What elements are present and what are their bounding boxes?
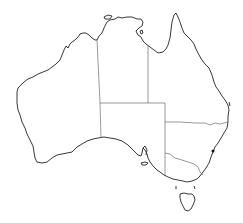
- fraser-island: [229, 102, 230, 106]
- wa-sa-border: [100, 103, 101, 138]
- map-svg: [0, 0, 243, 223]
- melville-island: [104, 15, 112, 19]
- bass-strait-island-east: [194, 186, 195, 189]
- groote-eylandt: [140, 30, 143, 34]
- wa-nt-border: [97, 40, 100, 103]
- nsw-vic-border: [165, 153, 203, 175]
- mainland-coastline: [17, 13, 229, 182]
- australia-map: [0, 0, 243, 223]
- city-marker: [212, 150, 215, 153]
- qld-nsw-border: [165, 122, 228, 125]
- tasmania: [180, 193, 195, 211]
- kangaroo-island: [141, 162, 148, 165]
